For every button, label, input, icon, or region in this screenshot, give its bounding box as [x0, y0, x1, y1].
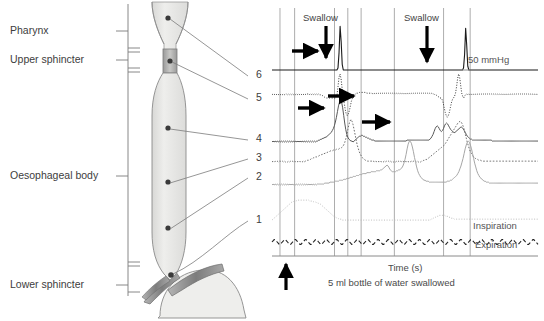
anatomy-label-lower-sphincter: Lower sphincter	[10, 278, 84, 290]
peristalsis-arrows	[292, 51, 390, 122]
sensor-dot-6	[165, 15, 170, 20]
trace-1	[272, 200, 538, 220]
scale-bar-label: 50 mmHg	[468, 54, 509, 65]
chart-gridlines	[280, 8, 470, 256]
trace-2	[272, 141, 538, 185]
expiration-label: Expiration	[475, 239, 517, 250]
swallow-label-1: Swallow	[303, 12, 338, 23]
sensor-number-3: 3	[256, 151, 262, 163]
x-axis-label: Time (s)	[388, 262, 422, 273]
sensor-number-1: 1	[256, 213, 262, 225]
anatomy-diagram	[0, 0, 272, 321]
inspiration-label: Inspiration	[473, 220, 517, 231]
anatomy-label-pharynx: Pharynx	[10, 24, 49, 36]
anatomy-label-oesophageal-body: Oesophageal body	[10, 169, 98, 181]
sensor-dot-4	[165, 125, 170, 130]
swallow-caption: 5 ml bottle of water swallowed	[328, 277, 455, 288]
swallow-label-2: Swallow	[404, 12, 439, 23]
trace-5	[272, 74, 538, 117]
bracket-rail	[116, 4, 140, 296]
sensor-dot-2	[165, 225, 170, 230]
sensor-number-5: 5	[256, 91, 262, 103]
sensor-number-2: 2	[256, 170, 262, 182]
oesophageal-body-shape	[152, 73, 186, 280]
sensor-number-6: 6	[256, 68, 262, 80]
pharynx-shape	[152, 2, 188, 50]
sensor-dot-3	[165, 179, 170, 184]
sensor-dot-5	[167, 58, 172, 63]
sensor-dot-1	[168, 272, 174, 278]
sensor-number-4: 4	[256, 132, 262, 144]
anatomy-label-upper-sphincter: Upper sphincter	[10, 53, 84, 65]
oesophageal-manometry-figure: Pharynx Upper sphincter Oesophageal body…	[0, 0, 544, 321]
